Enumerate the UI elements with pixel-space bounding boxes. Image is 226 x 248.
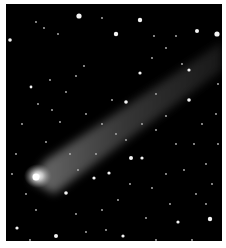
bright-star — [129, 156, 133, 160]
star — [85, 113, 87, 115]
star — [181, 63, 183, 65]
star — [111, 99, 113, 101]
bright-star — [138, 71, 141, 74]
star — [191, 239, 193, 241]
star — [85, 231, 87, 233]
bright-star — [107, 171, 110, 174]
starfield — [6, 4, 222, 241]
star — [35, 209, 37, 211]
bright-star — [114, 32, 118, 36]
star — [29, 239, 31, 241]
star — [165, 173, 167, 175]
star — [155, 129, 157, 131]
star — [205, 163, 207, 165]
star — [151, 187, 153, 189]
star — [211, 183, 213, 185]
star — [193, 143, 195, 145]
star — [215, 113, 217, 115]
star — [11, 173, 13, 175]
star — [155, 239, 157, 241]
bright-star — [214, 31, 219, 36]
star — [105, 229, 107, 231]
star — [165, 115, 167, 117]
star — [175, 143, 177, 145]
bright-star — [187, 98, 191, 102]
star — [129, 183, 131, 185]
bright-star — [8, 38, 12, 42]
bright-star — [92, 176, 95, 179]
star — [51, 109, 53, 111]
bright-star — [15, 226, 18, 229]
bright-star — [138, 18, 142, 22]
bright-star — [76, 13, 81, 18]
bright-star — [208, 217, 212, 221]
star — [101, 209, 103, 211]
star — [45, 141, 47, 143]
star — [153, 35, 155, 37]
star — [83, 65, 85, 67]
star — [175, 35, 177, 37]
star — [169, 203, 171, 205]
bright-star — [30, 86, 33, 89]
bright-star — [124, 100, 128, 104]
bright-star — [64, 191, 68, 195]
bright-star — [187, 68, 190, 71]
star — [37, 103, 39, 105]
star — [217, 143, 219, 145]
star — [205, 203, 207, 205]
comet-photo — [6, 4, 222, 241]
bright-star — [195, 29, 199, 33]
star — [75, 75, 77, 77]
star — [145, 217, 147, 219]
star — [21, 123, 23, 125]
comet-head — [24, 164, 52, 188]
star — [117, 199, 119, 201]
star — [195, 193, 197, 195]
star — [15, 153, 17, 155]
star — [65, 91, 67, 93]
bright-star — [54, 234, 58, 238]
star — [35, 21, 37, 23]
star — [43, 27, 45, 29]
bright-star — [140, 156, 143, 159]
star — [165, 47, 167, 49]
star — [151, 57, 153, 59]
star — [183, 169, 185, 171]
star — [217, 83, 219, 85]
star — [25, 193, 27, 195]
bright-star — [176, 220, 179, 223]
star — [201, 123, 203, 125]
star — [59, 121, 61, 123]
star — [57, 33, 59, 35]
star — [75, 213, 77, 215]
star — [49, 79, 51, 81]
star — [101, 17, 103, 19]
bright-star — [121, 234, 124, 237]
